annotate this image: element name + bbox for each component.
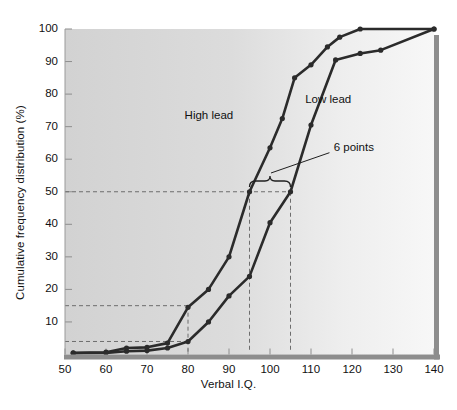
annotation-low-lead: Low lead: [305, 93, 351, 105]
x-tick-label: 70: [132, 363, 162, 375]
y-tick-label: 20: [24, 282, 58, 294]
x-tick-label: 60: [91, 363, 121, 375]
x-axis-title: Verbal I.Q.: [0, 378, 457, 390]
y-tick-label: 30: [24, 250, 58, 262]
x-tick-label: 100: [255, 363, 285, 375]
x-tick-label: 140: [419, 363, 449, 375]
y-tick-label: 70: [24, 120, 58, 132]
chart-svg: [0, 0, 457, 410]
y-tick-label: 40: [24, 217, 58, 229]
x-tick-label: 120: [337, 363, 367, 375]
y-tick-label: 10: [24, 315, 58, 327]
y-tick-label: 50: [24, 185, 58, 197]
annotation-high-lead: High lead: [185, 109, 234, 121]
x-tick-label: 130: [378, 363, 408, 375]
chart-figure: Cumulative frequency distribution (%) Ve…: [0, 0, 457, 410]
y-tick-label: 90: [24, 55, 58, 67]
y-axis-title: Cumulative frequency distribution (%): [14, 105, 26, 300]
y-tick-label: 80: [24, 87, 58, 99]
x-tick-label: 90: [214, 363, 244, 375]
x-tick-label: 110: [296, 363, 326, 375]
y-tick-label: 100: [24, 22, 58, 34]
y-tick-label: 60: [24, 152, 58, 164]
x-tick-label: 80: [173, 363, 203, 375]
annotation-six-points: 6 points: [334, 141, 374, 153]
x-tick-label: 50: [50, 363, 80, 375]
